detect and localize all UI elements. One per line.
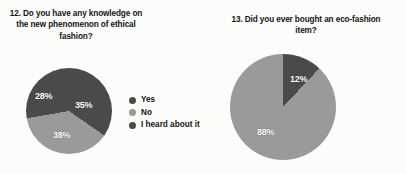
pie-chart-q12: 35% 38% 28% [26, 68, 112, 154]
legend-dot-icon-no [129, 109, 136, 116]
legend-label-no: No [141, 108, 152, 118]
legend-dot-icon-yes [129, 97, 136, 104]
pie-slice-label-yes: 12% [290, 74, 307, 84]
pie-slice-label-heard-about-it: 28% [35, 91, 52, 101]
pie-graphic-q12 [26, 68, 112, 154]
chart-title-q13: 13. Did you ever bought an eco-fashion i… [226, 14, 386, 37]
scanned-figure-page: 12. Do you have any knowledge on the new… [0, 0, 406, 174]
pie-slice-label-yes: 35% [75, 100, 92, 110]
chart-title-q12: 12. Do you have any knowledge on the new… [8, 8, 144, 42]
pie-slice-label-no: 88% [257, 127, 274, 137]
pie-graphic-q13 [230, 54, 336, 160]
chart-panel-q13: 13. Did you ever bought an eco-fashion i… [212, 0, 406, 174]
pie-slice-label-no: 38% [53, 130, 70, 140]
pie-chart-q13: 12% 88% [230, 54, 336, 160]
legend-item-no: No [129, 108, 200, 118]
legend-label-yes: Yes [141, 95, 155, 105]
legend-label-heard-about-it: I heard about it [141, 120, 200, 130]
legend-item-yes: Yes [129, 95, 200, 105]
legend-q12: Yes No I heard about it [129, 95, 200, 130]
chart-panel-q12: 12. Do you have any knowledge on the new… [0, 0, 212, 174]
legend-dot-icon-heard-about-it [129, 122, 136, 129]
legend-item-heard-about-it: I heard about it [129, 120, 200, 130]
